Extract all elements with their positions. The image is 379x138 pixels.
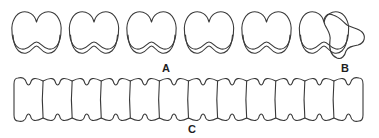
bilobed-outline <box>12 12 61 49</box>
bilobed-outline <box>242 12 291 49</box>
segment-divider <box>275 81 276 118</box>
panel-c-chain <box>14 78 363 122</box>
panel-label-a: A <box>162 63 170 74</box>
segment-divider <box>159 81 160 118</box>
bilobed-outline <box>184 12 233 49</box>
segment-divider <box>42 81 43 118</box>
segment-divider <box>217 81 218 118</box>
trilobed-outline <box>324 14 364 58</box>
segment-divider <box>101 81 102 118</box>
bilobed-outline <box>127 12 176 49</box>
lower-margin-line <box>301 35 348 53</box>
lower-margin-line <box>13 35 60 53</box>
segment-divider <box>130 81 131 118</box>
segment-divider <box>71 81 72 118</box>
panel-b-shape <box>324 14 364 58</box>
diagram-figure <box>0 0 379 138</box>
lower-margin-line <box>243 35 290 53</box>
lower-margin-line <box>71 35 118 53</box>
segment-divider <box>188 81 189 118</box>
segment-divider <box>246 81 247 118</box>
bilobed-outline <box>299 12 348 49</box>
panel-a-shapes <box>12 12 349 53</box>
bilobed-outline <box>69 12 118 49</box>
panel-label-b: B <box>341 63 349 74</box>
segment-divider <box>304 81 305 118</box>
panel-label-c: C <box>188 124 196 135</box>
segment-divider <box>333 81 334 118</box>
lower-margin-line <box>128 35 175 53</box>
lower-margin-line <box>186 35 233 53</box>
